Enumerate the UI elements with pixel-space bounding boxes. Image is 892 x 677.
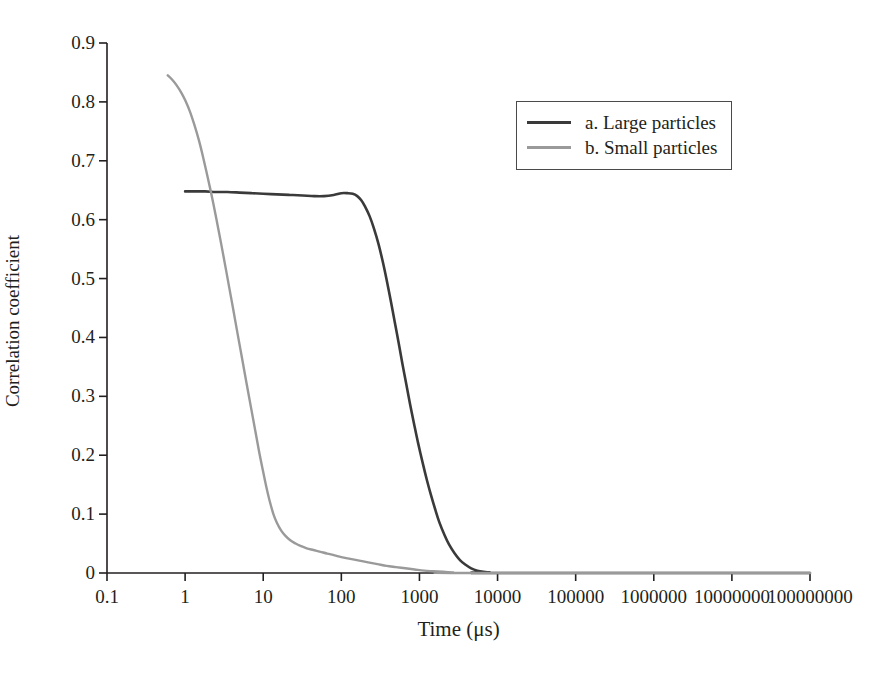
series-line-large-particles — [185, 191, 810, 573]
y-axis-title: Correlation coefficient — [0, 56, 26, 586]
legend-label-series-a: a. Large particles — [585, 112, 716, 134]
y-axis-tick-label: 0.9 — [0, 33, 95, 52]
plot-canvas — [0, 0, 892, 677]
legend-entry-large-particles: a. Large particles — [527, 110, 717, 135]
correlation-coefficient-chart: 0.11101001000100001000001000000100000001… — [0, 0, 892, 677]
x-axis-tick-label: 100000000 — [740, 587, 880, 606]
chart-legend: a. Large particles b. Small particles — [516, 101, 732, 170]
legend-line-icon-series-a — [527, 121, 571, 124]
x-axis-title: Time (μs) — [107, 617, 810, 642]
y-axis-ticks — [99, 43, 107, 573]
legend-label-series-b: b. Small particles — [585, 137, 717, 159]
legend-entry-small-particles: b. Small particles — [527, 135, 717, 160]
legend-line-icon-series-b — [527, 146, 571, 149]
